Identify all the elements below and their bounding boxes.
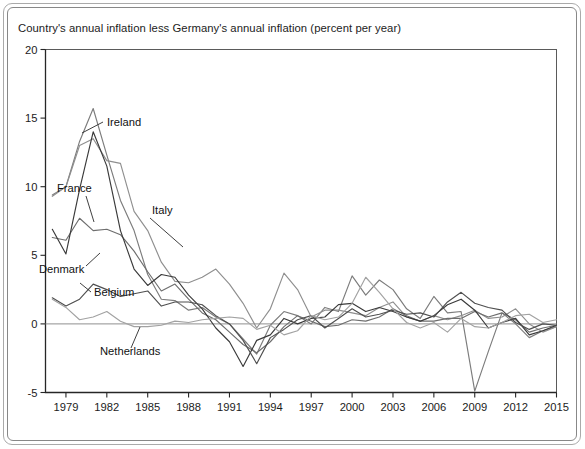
y-tick-label: 15 xyxy=(25,112,37,124)
series-label-belgium: Belgium xyxy=(94,286,134,298)
leader-line-denmark xyxy=(86,253,100,266)
y-tick-label: 10 xyxy=(25,181,37,193)
tick-label-layer: -505101520197919821985198819911994199720… xyxy=(25,44,569,413)
x-tick-label: 1988 xyxy=(176,401,201,413)
x-tick-label: 1997 xyxy=(299,401,324,413)
x-tick-label: 1991 xyxy=(217,401,242,413)
x-tick-label: 2003 xyxy=(381,401,406,413)
x-tick-label: 2000 xyxy=(340,401,365,413)
series-label-denmark: Denmark xyxy=(39,263,85,275)
x-tick-label: 1985 xyxy=(135,401,160,413)
line-chart: IrelandFranceItalyDenmarkBelgiumNetherla… xyxy=(0,0,585,449)
figure-container: Country's annual inflation less Germany'… xyxy=(0,0,585,449)
series-label-france: France xyxy=(57,182,92,194)
x-tick-label: 2009 xyxy=(462,401,487,413)
x-tick-label: 1982 xyxy=(94,401,119,413)
y-tick-label: -5 xyxy=(28,387,38,399)
leader-line-france xyxy=(86,196,94,222)
axis-lines xyxy=(46,50,557,393)
y-tick-label: 5 xyxy=(31,249,37,261)
y-tick-label: 0 xyxy=(31,318,37,330)
series-label-italy: Italy xyxy=(152,204,173,216)
x-tick-label: 2015 xyxy=(544,401,569,413)
x-tick-label: 1994 xyxy=(258,401,283,413)
x-tick-label: 1979 xyxy=(53,401,78,413)
x-tick-label: 2006 xyxy=(421,401,446,413)
x-tick-label: 2012 xyxy=(503,401,528,413)
series-label-netherlands: Netherlands xyxy=(100,345,161,357)
y-tick-label: 20 xyxy=(25,44,37,56)
annotation-layer: IrelandFranceItalyDenmarkBelgiumNetherla… xyxy=(39,116,183,357)
series-line-italy xyxy=(52,139,556,332)
series-line-denmark xyxy=(52,132,556,367)
plot-area-border xyxy=(46,50,557,393)
leader-line-italy xyxy=(150,218,183,247)
leader-line-belgium xyxy=(80,283,91,292)
series-label-ireland: Ireland xyxy=(107,116,141,128)
